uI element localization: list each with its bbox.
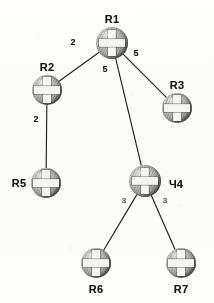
node-r1[interactable] [96,27,128,59]
edge-weight-r4-r6: 3 [122,196,126,205]
router-cross-icon [132,177,159,185]
router-cross-icon [34,86,59,94]
node-label-r6: R6 [89,283,103,295]
router-cross-icon [33,179,58,187]
edge-r1-r4 [115,58,141,167]
node-r2[interactable] [32,75,62,105]
edge-weight-r4-r7: 3 [163,196,167,205]
node-label-r5: R5 [12,177,26,189]
edge-r1-r3 [123,54,167,98]
node-r3[interactable] [162,93,192,123]
diagram-canvas: R1R2R3Ч4R5R6R7 255233 [0,0,214,303]
edge-weight-r1-r3: 5 [133,48,138,58]
node-label-r4: Ч4 [169,178,183,190]
router-cross-icon [168,259,193,267]
router-cross-icon [164,104,189,112]
edge-weight-r1-r2: 2 [70,37,75,47]
node-r4[interactable] [129,165,161,197]
node-r7[interactable] [166,248,196,278]
node-label-r3: R3 [170,79,184,91]
edge-r4-r6 [103,194,137,251]
node-label-r2: R2 [40,61,54,73]
edge-r1-r2 [58,52,99,82]
edge-r2-r5 [46,104,47,169]
router-cross-icon [99,39,126,47]
node-r5[interactable] [31,168,61,198]
router-cross-icon [83,259,108,267]
node-r6[interactable] [81,248,111,278]
edge-weight-r2-r5: 2 [33,114,38,124]
edge-weight-r1-r4: 5 [102,64,107,74]
node-label-r7: R7 [174,283,188,295]
node-label-r1: R1 [105,13,119,25]
